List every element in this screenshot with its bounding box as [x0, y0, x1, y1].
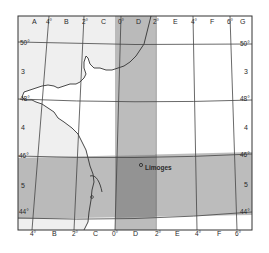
top-col-f: F: [210, 18, 214, 25]
top-deg-2w: 2°: [82, 18, 89, 25]
right-row-4: 4: [244, 124, 248, 131]
map-container: A 4° B 2° C 0° D 2° E 4° F 6° G 4° B 2° …: [0, 0, 269, 253]
bottom-deg-2e: 2°: [155, 230, 162, 237]
left-lat-48: 48°: [20, 95, 30, 102]
top-col-c: C: [101, 18, 106, 25]
bottom-deg-2w: 2°: [72, 230, 79, 237]
bottom-deg-4e: 4°: [195, 230, 202, 237]
city-limoges: Limoges: [139, 163, 172, 172]
right-lat-44: 44°: [240, 208, 250, 215]
bottom-deg-0: 0°: [112, 230, 119, 237]
top-labels: A 4° B 2° C 0° D 2° E 4° F 6° G: [32, 18, 245, 25]
bottom-col-e: E: [175, 230, 180, 237]
right-row-3: 3: [244, 68, 248, 75]
left-row-4: 4: [21, 124, 25, 131]
top-col-b: B: [64, 18, 69, 25]
top-deg-4e: 4°: [191, 18, 198, 25]
bottom-col-b: B: [52, 230, 57, 237]
top-col-g: G: [240, 18, 245, 25]
right-lat-48: 48°: [240, 95, 250, 102]
right-row-5: 5: [244, 181, 248, 188]
top-deg-0: 0°: [118, 18, 125, 25]
map-svg: A 4° B 2° C 0° D 2° E 4° F 6° G 4° B 2° …: [0, 0, 269, 253]
left-lat-44: 44°: [19, 208, 29, 215]
bottom-col-f: F: [217, 230, 221, 237]
left-row-5: 5: [21, 182, 25, 189]
top-deg-2e: 2°: [153, 18, 160, 25]
bottom-labels: 4° B 2° C 0° D 2° E 4° F 6°: [30, 230, 242, 237]
top-col-a: A: [32, 18, 37, 25]
bottom-deg-6e: 6°: [235, 230, 242, 237]
right-lat-46: 46°: [240, 151, 250, 158]
bottom-deg-4w: 4°: [30, 230, 37, 237]
left-lat-50: 50°: [20, 39, 30, 46]
top-col-e: E: [173, 18, 178, 25]
top-deg-4w: 4°: [46, 18, 53, 25]
bottom-col-d: D: [133, 230, 138, 237]
top-col-d: D: [136, 18, 141, 25]
left-lat-46: 46°: [19, 152, 29, 159]
left-row-3: 3: [21, 68, 25, 75]
bottom-col-c: C: [93, 230, 98, 237]
top-deg-6e: 6°: [227, 18, 234, 25]
right-lat-50: 50°: [240, 40, 250, 47]
city-label: Limoges: [145, 164, 172, 172]
